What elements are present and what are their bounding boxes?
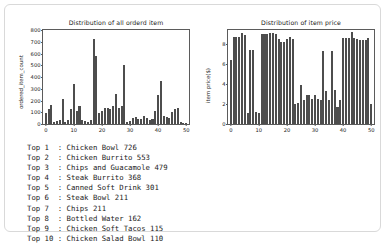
y-axis-tick: 600 <box>31 51 41 57</box>
bar <box>163 116 165 124</box>
bar <box>336 107 338 124</box>
y-axis-tick: 200 <box>31 98 41 104</box>
bar <box>356 39 358 124</box>
bar <box>230 60 232 125</box>
bar <box>339 100 341 124</box>
plot-area-item-price <box>228 30 374 124</box>
bar <box>90 120 92 124</box>
bar <box>87 122 89 124</box>
bar <box>249 50 251 124</box>
bar <box>157 95 159 124</box>
chart-axes-item-price: 0246801020304050 <box>227 29 375 125</box>
bar <box>345 38 347 125</box>
bar <box>286 39 288 124</box>
y-axis-tick: 100 <box>31 109 41 115</box>
bar <box>325 91 327 124</box>
bar <box>118 108 120 124</box>
x-axis-tick: 10 <box>71 127 78 133</box>
bar <box>146 118 148 124</box>
bar <box>166 117 168 124</box>
bar <box>107 108 109 124</box>
bar <box>126 122 128 124</box>
bar <box>78 106 80 124</box>
bar <box>135 117 137 124</box>
list-item: Top 3 : Chips and Guacamole 479 <box>27 163 168 173</box>
bar <box>320 100 322 124</box>
list-item: Top 5 : Canned Soft Drink 301 <box>27 183 168 193</box>
x-axis-tick: 20 <box>99 127 106 133</box>
bar <box>70 109 72 124</box>
bar <box>98 113 100 124</box>
x-axis-tick: 20 <box>284 127 291 133</box>
bar <box>280 42 282 125</box>
bar <box>348 38 350 125</box>
bar <box>297 103 299 125</box>
bar <box>168 118 170 124</box>
bar <box>45 113 47 124</box>
bar <box>56 121 58 124</box>
y-axis-label-item-price: item price($) <box>205 68 211 103</box>
y-axis-tick: 800 <box>31 27 41 33</box>
x-axis-tick: 0 <box>229 127 232 133</box>
bar <box>112 106 114 124</box>
bar <box>314 95 316 125</box>
bar <box>137 119 139 124</box>
bar <box>283 42 285 125</box>
list-item: Top 10 : Chicken Salad Bowl 110 <box>27 234 168 244</box>
x-axis-tick: 50 <box>368 127 375 133</box>
bar <box>353 38 355 125</box>
x-axis-tick: 50 <box>183 127 190 133</box>
bar <box>238 37 240 125</box>
bar <box>143 116 145 124</box>
list-item: Top 2 : Chicken Burrito 553 <box>27 153 168 163</box>
bar <box>263 34 265 124</box>
x-axis-tick: 30 <box>312 127 319 133</box>
x-axis-tick: 10 <box>256 127 263 133</box>
bar <box>59 120 61 124</box>
bar <box>53 122 55 124</box>
bar <box>351 32 353 125</box>
bar <box>328 100 330 124</box>
bar <box>241 33 243 125</box>
bar <box>289 37 291 125</box>
bar <box>294 104 296 124</box>
bar <box>365 40 367 124</box>
top-items-list: Top 1 : Chicken Bowl 726Top 2 : Chicken … <box>27 143 168 244</box>
y-axis-tick: 500 <box>31 62 41 68</box>
bar <box>258 113 260 124</box>
bar <box>266 34 268 124</box>
bar <box>308 95 310 125</box>
x-axis-tick: 30 <box>127 127 134 133</box>
y-axis-tick: 400 <box>31 74 41 80</box>
x-axis-tick: 40 <box>155 127 162 133</box>
bar <box>84 121 86 124</box>
bar <box>244 35 246 125</box>
bar <box>62 99 64 124</box>
y-axis-tick: 4 <box>222 81 225 87</box>
chart-title-item-price: Distribution of item price <box>227 19 375 26</box>
y-axis-tick: 700 <box>31 39 41 45</box>
bar <box>261 34 263 124</box>
bar <box>367 38 369 125</box>
bar <box>331 51 333 125</box>
list-item: Top 4 : Steak Burrito 368 <box>27 173 168 183</box>
list-item: Top 6 : Steak Bowl 211 <box>27 193 168 203</box>
bar <box>362 40 364 124</box>
chart-axes-ordered-item-count: 010020030040050060070080001020304050 <box>42 29 190 125</box>
output-card: Distribution of all orderd item ordered_… <box>4 4 381 232</box>
y-axis-tick: 2 <box>222 101 225 107</box>
bar <box>151 119 153 124</box>
y-axis-label-ordered-item-count: ordered_item_count <box>18 55 24 109</box>
bar <box>174 109 176 124</box>
bar <box>342 38 344 125</box>
bar <box>109 109 111 124</box>
y-axis-tick: 0 <box>37 121 40 127</box>
bar <box>306 95 308 125</box>
bar <box>182 123 184 124</box>
y-axis-tick: 300 <box>31 86 41 92</box>
y-axis-tick: 8 <box>222 41 225 47</box>
matplotlib-figure: Distribution of all orderd item ordered_… <box>5 5 387 138</box>
bar <box>50 105 52 124</box>
list-item: Top 9 : Chicken Soft Tacos 115 <box>27 224 168 234</box>
bar <box>171 112 173 124</box>
